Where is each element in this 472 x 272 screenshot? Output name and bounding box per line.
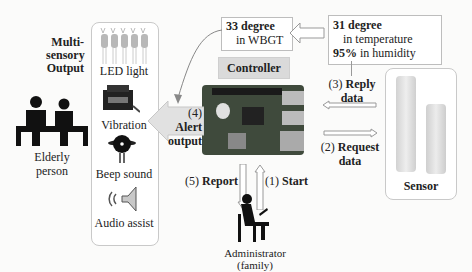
request-line1: Request — [338, 140, 379, 154]
start-text: Start — [282, 174, 308, 188]
wbgt-value: 33 degree — [226, 19, 288, 33]
alert-line1: Alert — [175, 120, 202, 134]
output-led-label: LED light — [89, 64, 159, 79]
alert-line2: output — [160, 134, 202, 148]
request-num: (2) — [321, 140, 335, 154]
wbgt-box: 33 degree in WBGT — [221, 17, 293, 51]
sensor-tall-icon — [396, 76, 416, 172]
alert-output-label: (4) Alert output — [160, 106, 202, 148]
temperature-label: in temperature — [333, 32, 437, 46]
reply-line1: Reply — [346, 77, 376, 91]
multisensory-title: Multi- sensory Output — [46, 36, 84, 75]
start-label: (1) Start — [265, 174, 308, 189]
sensor-reading-box: 31 degree in temperature 95% in humidity — [328, 15, 442, 65]
report-label: (5) Report — [185, 174, 238, 189]
output-audio-label: Audio assist — [89, 216, 159, 231]
sensor-short-icon — [426, 104, 446, 174]
elderly-couple-icon — [14, 96, 90, 146]
request-data-label: (2) Request data — [318, 140, 382, 168]
vibration-motor-icon — [100, 84, 140, 116]
reply-arrow-icon — [322, 100, 378, 110]
reading-connector — [351, 61, 352, 76]
report-text: Report — [202, 174, 238, 188]
title-line3: Output — [46, 62, 84, 75]
convert-arrow-icon — [289, 22, 325, 44]
controller-label: Controller — [218, 57, 290, 79]
request-arrow-icon — [322, 128, 378, 138]
reply-num: (3) — [329, 77, 343, 91]
administrator-icon — [235, 194, 275, 242]
elderly-line1: Elderly — [14, 150, 90, 164]
alert-num: (4) — [188, 106, 202, 120]
report-num: (5) — [185, 174, 199, 188]
humidity-label: in humidity — [360, 46, 416, 60]
request-line2: data — [318, 154, 382, 168]
elderly-label: Elderly person — [14, 150, 90, 178]
temperature-value: 31 degree — [333, 18, 437, 32]
led-icon — [99, 26, 151, 64]
elderly-line2: person — [14, 164, 90, 178]
administrator-label: Administrator (family) — [205, 247, 305, 271]
speaker-icon — [106, 184, 142, 214]
buzzer-icon — [107, 133, 137, 165]
humidity-value: 95% — [333, 46, 357, 60]
wbgt-label: in WBGT — [226, 33, 288, 47]
wbgt-to-alert-connector — [170, 28, 225, 108]
start-num: (1) — [265, 174, 279, 188]
sensor-label: Sensor — [385, 179, 457, 194]
output-beep-label: Beep sound — [89, 167, 159, 182]
